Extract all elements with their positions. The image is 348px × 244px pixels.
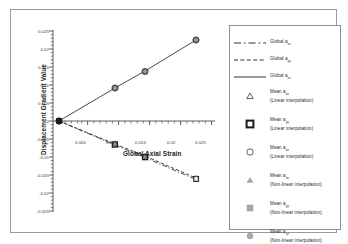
y-tick-label: -0.015 (23, 173, 49, 178)
y-major-ticks (49, 31, 53, 211)
legend-item-mean-azz-nonlinear: Mean azz(Non-linear interpolation) (230, 229, 342, 243)
plot-svg (25, 22, 223, 222)
y-tick-label: -0.005 (23, 137, 49, 142)
legend-item-mean-ayy-linear: Mean ayy(Linear interpolation) (230, 117, 342, 131)
legend-item-mean-ayy-nonlinear: Mean ayy(Non-linear interpolation) (230, 201, 342, 215)
solid-line-icon (230, 70, 270, 84)
x-tick-label: 0.005 (75, 140, 86, 145)
y-tick-label: 0.005 (23, 101, 49, 106)
legend-label: Global ayy (270, 56, 291, 65)
x-tick-label: 0.02 (167, 140, 176, 145)
origin-marker-cluster (56, 118, 63, 125)
legend-label: Mean ayy(Linear interpolation) (270, 117, 313, 131)
x-tick-label: 0.01 (106, 140, 115, 145)
markers-azz (112, 37, 199, 91)
x-minor-ticks (65, 121, 205, 124)
plot-area: Displacement Gradient Value Global Axial… (25, 22, 223, 222)
filled-square-outline-icon (230, 117, 270, 131)
y-tick-label: 0.02 (23, 47, 49, 52)
y-tick-label: 0.015 (23, 65, 49, 70)
y-tick-label: -0.025 (23, 209, 49, 214)
y-tick-label: -0.02 (23, 191, 49, 196)
legend-label: Mean azz(Linear interpolation) (270, 145, 313, 159)
markers-axx-ayy (112, 141, 198, 182)
legend-item-global-axx: Global axx (230, 36, 342, 50)
gray-square-icon (230, 201, 270, 215)
chart-legend: Global axx Global ayy Global azz (229, 25, 341, 230)
dashed-line-icon (230, 53, 270, 67)
x-tick-label: 0.015 (135, 140, 146, 145)
legend-item-global-ayy: Global ayy (230, 53, 342, 67)
legend-label: Mean axx(Linear interpolation) (270, 89, 313, 103)
legend-label: Mean azz(Non-linear interpolation) (270, 229, 322, 243)
y-tick-label: -0.01 (23, 155, 49, 160)
x-axis-title: Global Axial Strain (123, 150, 181, 157)
legend-label: Mean ayy(Non-linear interpolation) (270, 201, 322, 215)
gray-triangle-icon (230, 173, 270, 187)
legend-label: Global azz (270, 73, 291, 82)
x-tick-label: 0.025 (195, 140, 206, 145)
figure-frame: Displacement Gradient Value Global Axial… (10, 9, 337, 233)
gray-circle-icon (230, 229, 270, 243)
legend-item-mean-azz-linear: Mean azz(Linear interpolation) (230, 145, 342, 159)
open-circle-icon (230, 145, 270, 159)
legend-item-global-azz: Global azz (230, 70, 342, 84)
chart-figure: Displacement Gradient Value Global Axial… (0, 0, 348, 244)
y-tick-label: 0 (23, 119, 49, 124)
y-tick-label: 0.01 (23, 83, 49, 88)
legend-label: Global axx (270, 39, 291, 48)
open-triangle-icon (230, 89, 270, 103)
series-line-global-azz (59, 40, 196, 121)
legend-label: Mean axx(Non-linear interpolation) (270, 173, 322, 187)
dashdot-line-icon (230, 36, 270, 50)
legend-item-mean-axx-linear: Mean axx(Linear interpolation) (230, 89, 342, 103)
y-tick-label: 0.025 (23, 29, 49, 34)
legend-item-mean-axx-nonlinear: Mean axx(Non-linear interpolation) (230, 173, 342, 187)
